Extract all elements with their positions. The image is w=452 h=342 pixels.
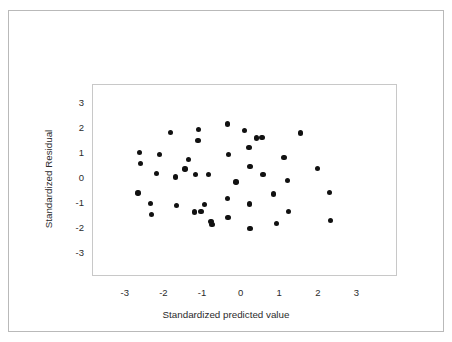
data-point xyxy=(174,203,179,208)
data-point xyxy=(198,209,203,214)
figure-panel: 3210-1-2-3 -3-2-10123 Standardized Resid… xyxy=(8,10,444,332)
data-point xyxy=(154,171,159,176)
data-point xyxy=(247,226,252,231)
data-point xyxy=(173,174,178,179)
y-tick-label: 2 xyxy=(79,123,84,133)
data-point xyxy=(225,196,230,201)
data-point xyxy=(259,135,264,140)
y-tick-label: -3 xyxy=(76,249,84,259)
data-point xyxy=(247,201,252,206)
data-point xyxy=(247,164,252,169)
y-tick-label: -2 xyxy=(76,224,84,234)
data-point xyxy=(225,121,230,126)
x-tick-label: 1 xyxy=(277,288,282,298)
data-point xyxy=(209,222,214,227)
data-point xyxy=(315,166,320,171)
data-point xyxy=(281,155,286,160)
y-tick-label: 3 xyxy=(79,98,84,108)
data-point xyxy=(286,209,291,214)
data-point xyxy=(135,190,140,195)
data-point xyxy=(260,172,265,177)
x-tick-label: -3 xyxy=(121,288,129,298)
data-point xyxy=(157,152,162,157)
data-point xyxy=(182,166,187,171)
data-point xyxy=(148,201,153,206)
data-point xyxy=(246,145,251,150)
data-point xyxy=(138,161,143,166)
x-tick-label: -1 xyxy=(198,288,206,298)
data-point xyxy=(206,172,211,177)
data-point xyxy=(225,215,230,220)
x-axis-title: Standardized predicted value xyxy=(9,309,443,320)
data-point xyxy=(186,157,191,162)
y-axis-title: Standardized Residual xyxy=(43,130,54,229)
y-tick-label: -1 xyxy=(76,198,84,208)
data-point xyxy=(271,191,276,196)
y-tick-label: 0 xyxy=(79,173,84,183)
data-point xyxy=(233,179,238,184)
data-point xyxy=(149,212,154,217)
data-point xyxy=(298,130,303,135)
x-tick-label: 3 xyxy=(354,288,359,298)
data-point xyxy=(137,150,142,155)
data-point xyxy=(168,130,173,135)
data-point xyxy=(327,190,332,195)
data-point xyxy=(196,127,201,132)
plot-area xyxy=(92,84,397,276)
data-point xyxy=(195,138,200,143)
data-point xyxy=(328,218,333,223)
data-point xyxy=(242,128,247,133)
data-point xyxy=(193,172,198,177)
data-point xyxy=(226,152,231,157)
y-tick-label: 1 xyxy=(79,148,84,158)
scatter-points-layer xyxy=(93,85,396,275)
data-point xyxy=(285,178,290,183)
data-point xyxy=(202,202,207,207)
data-point xyxy=(274,221,279,226)
x-tick-label: -2 xyxy=(159,288,167,298)
x-tick-label: 2 xyxy=(315,288,320,298)
data-point xyxy=(254,135,259,140)
data-point xyxy=(192,209,197,214)
x-tick-label: 0 xyxy=(238,288,243,298)
